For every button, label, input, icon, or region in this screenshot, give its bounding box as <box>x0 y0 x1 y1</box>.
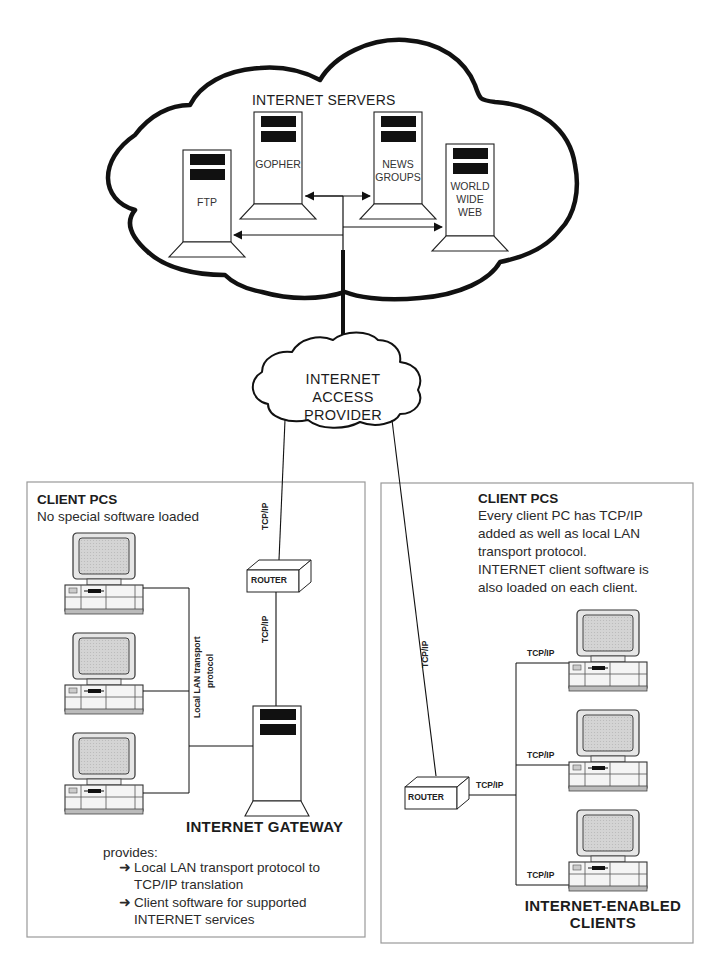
right-panel-desc-line2: added as well as local LAN <box>478 526 640 543</box>
lan-transport-label-line1: Local LAN transport <box>192 636 202 718</box>
access-provider-label-line1: INTERNET <box>290 370 396 389</box>
lan-transport-label-line2: protocol <box>205 654 215 688</box>
www-server-label-line3: WEB <box>446 206 494 219</box>
access-provider-label-line3: PROVIDER <box>290 406 396 425</box>
ftp-server-label: FTP <box>183 196 231 209</box>
right-client-2-tcpip-label: TCP/IP <box>527 750 554 760</box>
left-router-label: ROUTER <box>251 575 287 585</box>
left-uplink-tcpip-label: TCP/IP <box>260 503 270 530</box>
gateway-bullet-1-line2: TCP/IP translation <box>134 877 243 894</box>
left-panel-subheading: No special software loaded <box>37 509 199 526</box>
network-diagram-canvas <box>0 0 724 972</box>
internet-enabled-clients-line1: INTERNET-ENABLED <box>518 897 688 914</box>
right-panel-desc-line3: transport protocol. <box>478 544 587 561</box>
right-client-pc-3-icon <box>569 810 647 891</box>
right-panel-heading: CLIENT PCS <box>478 491 558 506</box>
internet-gateway-title: INTERNET GATEWAY <box>186 818 343 835</box>
right-client-pc-1-icon <box>569 610 647 691</box>
right-panel-desc-line1: Every client PC has TCP/IP <box>478 508 643 525</box>
right-router-label: ROUTER <box>408 792 444 802</box>
left-panel-heading: CLIENT PCS <box>37 492 117 507</box>
gateway-bullet-2-line1: Client software for supported <box>134 895 307 912</box>
internet-servers-title: INTERNET SERVERS <box>252 92 396 108</box>
left-client-pc-1-icon <box>65 533 143 614</box>
gateway-bullet-2-line2: INTERNET services <box>134 912 255 929</box>
left-client-pc-3-icon <box>65 733 143 814</box>
gopher-server-label: GOPHER <box>254 158 302 171</box>
gateway-bullet-2-arrow-icon: ➜ <box>119 895 131 912</box>
www-server-label-line1: WORLD <box>446 180 494 193</box>
right-panel-desc-line4: INTERNET client software is <box>478 562 649 579</box>
www-server-label-line2: WIDE <box>446 193 494 206</box>
internet-enabled-clients-line2: CLIENTS <box>518 914 688 931</box>
left-router-gateway-tcpip-label: TCP/IP <box>260 616 270 643</box>
gateway-bullet-1-line1: Local LAN transport protocol to <box>134 860 320 877</box>
right-panel-desc-line5: also loaded on each client. <box>478 580 638 597</box>
right-uplink-tcpip-label: TCP/IP <box>420 641 430 668</box>
left-client-pc-2-icon <box>65 633 143 714</box>
access-provider-label-line2: ACCESS <box>290 388 396 407</box>
right-client-3-tcpip-label: TCP/IP <box>527 870 554 880</box>
right-client-pc-2-icon <box>569 710 647 791</box>
right-client-1-tcpip-label: TCP/IP <box>527 648 554 658</box>
newsgroups-server-label-line2: GROUPS <box>374 171 422 184</box>
internet-gateway-server-icon <box>245 706 309 816</box>
gateway-bullet-1-arrow-icon: ➜ <box>119 860 131 877</box>
right-router-link-tcpip-label: TCP/IP <box>476 780 503 790</box>
newsgroups-server-label-line1: NEWS <box>374 158 422 171</box>
